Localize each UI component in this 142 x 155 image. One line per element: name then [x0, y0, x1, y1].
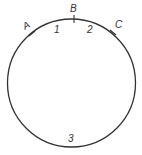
tick-mark-a	[29, 31, 35, 36]
circle	[8, 19, 136, 147]
arc-label-2: 2	[86, 24, 93, 35]
arc-label-1: 1	[54, 24, 60, 35]
circle-arc-diagram: A B C 1 2 3	[0, 0, 142, 155]
point-label-c: C	[115, 19, 123, 30]
arc-label-3: 3	[68, 133, 74, 144]
point-label-b: B	[70, 3, 77, 14]
point-label-a: A	[20, 19, 32, 33]
